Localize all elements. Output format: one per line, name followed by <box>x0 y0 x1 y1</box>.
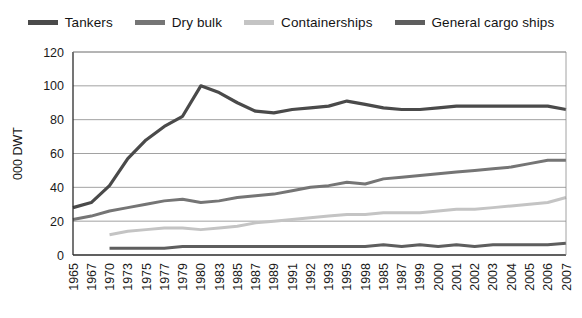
series-group <box>73 86 566 248</box>
x-axis-tick-label: 1998 <box>359 263 373 291</box>
x-axis-tick-label: 2004 <box>505 263 519 291</box>
legend-swatch-icon <box>244 20 274 25</box>
series-line-dry-bulk <box>73 160 566 219</box>
y-axis-tick-labels: 020406080100120 <box>43 46 64 263</box>
x-axis-tick-label: 2001 <box>450 263 464 291</box>
legend-swatch-icon <box>28 20 58 25</box>
x-axis-tick-label: 1973 <box>121 263 135 291</box>
x-axis-tick-label: 1989 <box>267 263 281 291</box>
x-axis-tick-label: 1977 <box>158 263 172 291</box>
series-line-general-cargo-ships <box>110 243 566 248</box>
legend-label: Tankers <box>65 15 113 30</box>
line-chart-svg: 020406080100120 196519671970197319751977… <box>0 36 582 318</box>
x-axis-tick-label: 1987 <box>249 263 263 291</box>
x-axis-tick-label: 2006 <box>541 263 555 291</box>
legend-item-general-cargo-ships: General cargo ships <box>395 15 555 30</box>
x-axis-tick-label: 1967 <box>85 263 99 291</box>
y-axis-tick-label: 80 <box>50 113 64 127</box>
x-axis-tick-label: 1992 <box>304 263 318 291</box>
legend-item-containerships: Containerships <box>244 15 372 30</box>
chart-legend: Tankers Dry bulk Containerships General … <box>0 10 582 34</box>
x-axis-tick-label: 1985 <box>377 263 391 291</box>
x-axis-tick-label: 2002 <box>468 263 482 291</box>
x-axis-tick-labels: 1965196719701973197519771979198019831985… <box>67 263 574 291</box>
y-axis-tick-label: 20 <box>50 215 64 229</box>
series-line-containerships <box>110 197 566 234</box>
x-axis-tick-label: 2007 <box>560 263 574 291</box>
y-axis-tick-label: 0 <box>57 249 64 263</box>
x-axis-tick-label: 2003 <box>486 263 500 291</box>
x-axis-tick-label: 1987 <box>395 263 409 291</box>
legend-label: Containerships <box>281 15 372 30</box>
chart-plot-area: 020406080100120 196519671970197319751977… <box>0 36 582 318</box>
x-axis-tick-label: 2000 <box>432 263 446 291</box>
x-axis-tick-label: 2005 <box>523 263 537 291</box>
legend-swatch-icon <box>395 20 425 25</box>
x-axis-tick-label: 1983 <box>213 263 227 291</box>
x-axis-tick-label: 1999 <box>413 263 427 291</box>
gridlines-group <box>73 52 566 221</box>
legend-item-tankers: Tankers <box>28 15 113 30</box>
caption-sliver <box>0 306 582 318</box>
y-axis-tick-label: 40 <box>50 181 64 195</box>
legend-item-dry-bulk: Dry bulk <box>135 15 222 30</box>
y-axis-tick-label: 100 <box>43 79 64 93</box>
x-axis-tick-label: 1980 <box>194 263 208 291</box>
y-axis-tick-label: 60 <box>50 147 64 161</box>
legend-swatch-icon <box>135 20 165 25</box>
y-axis-title: 000 DWT <box>11 127 25 180</box>
x-axis-tick-label: 1995 <box>340 263 354 291</box>
x-axis-tick-label: 1965 <box>67 263 81 291</box>
x-axis-tick-label: 1993 <box>322 263 336 291</box>
x-axis-tick-label: 1979 <box>176 263 190 291</box>
x-axis-tick-label: 1991 <box>286 263 300 291</box>
series-line-tankers <box>73 86 566 208</box>
x-axis-tick-label: 1985 <box>231 263 245 291</box>
legend-label: General cargo ships <box>432 15 555 30</box>
legend-label: Dry bulk <box>172 15 222 30</box>
chart-figure: Tankers Dry bulk Containerships General … <box>0 0 582 318</box>
x-axis-tick-label: 1975 <box>140 263 154 291</box>
x-axis-tick-label: 1970 <box>103 263 117 291</box>
y-axis-tick-label: 120 <box>43 46 64 60</box>
